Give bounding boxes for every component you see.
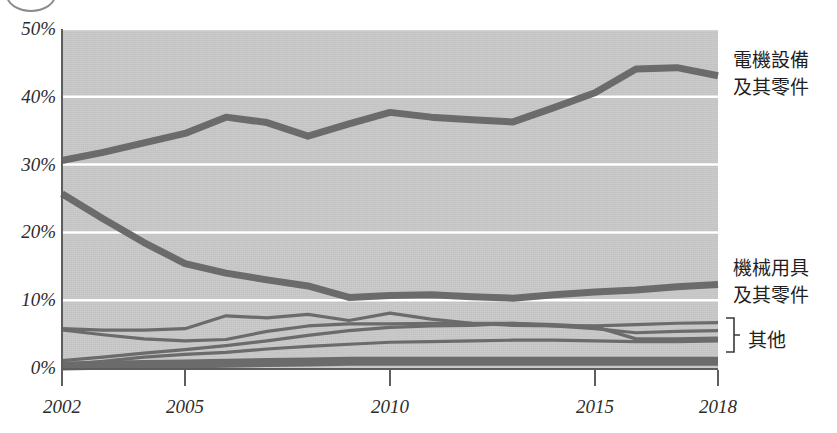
series-label-other: 其他: [748, 325, 786, 352]
gridlines: [62, 29, 718, 300]
series-label-machinery-line2: 及其零件: [733, 282, 809, 309]
series-label-machinery-line1: 機械用具: [733, 255, 809, 282]
x-axis-tick-marks: [62, 370, 718, 386]
chart-canvas: [0, 0, 837, 433]
chart-figure: 50%40%30%20%10%0% 20022005201020152018 電…: [0, 0, 837, 433]
other-series-bracket: [726, 318, 740, 352]
series-lines: [62, 68, 718, 366]
series-label-electrical-line2: 及其零件: [733, 74, 809, 101]
series-label-machinery: 機械用具 及其零件: [733, 255, 809, 309]
series-label-electrical-line1: 電機設備: [733, 47, 809, 74]
series-line: [62, 194, 718, 298]
series-label-electrical: 電機設備 及其零件: [733, 47, 809, 101]
series-line: [62, 68, 718, 161]
series-line: [62, 361, 718, 366]
